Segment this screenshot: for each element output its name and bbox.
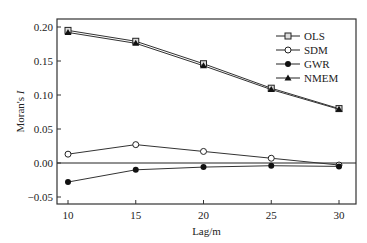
x-tick-label: 20 — [198, 209, 210, 221]
legend-label: SDM — [304, 44, 328, 56]
y-tick-label: 0.15 — [34, 55, 54, 67]
y-tick-label: 0.05 — [34, 123, 54, 135]
y-tick-label: 0.20 — [34, 21, 54, 33]
marker-gwr — [65, 179, 71, 185]
marker-gwr — [336, 163, 342, 169]
legend-marker — [285, 47, 291, 53]
y-tick-label: −0.05 — [28, 191, 54, 203]
marker-sdm — [268, 155, 274, 161]
marker-gwr — [201, 164, 207, 170]
legend-marker — [285, 33, 291, 39]
x-tick-label: 15 — [130, 209, 142, 221]
x-tick-label: 10 — [63, 209, 75, 221]
y-tick-label: 0.00 — [34, 157, 54, 169]
x-axis-label: Lag/m — [192, 225, 221, 237]
series-line-nmem — [68, 32, 339, 109]
marker-sdm — [65, 151, 71, 157]
x-tick-label: 30 — [334, 209, 346, 221]
series-line-ols — [68, 30, 339, 108]
y-tick-label: 0.10 — [34, 89, 54, 101]
legend-label: GWR — [304, 58, 330, 70]
y-axis-label: Moran's I — [14, 89, 26, 132]
marker-sdm — [201, 148, 207, 154]
legend-label: OLS — [304, 30, 325, 42]
marker-sdm — [133, 142, 139, 148]
legend-label: NMEM — [304, 72, 338, 84]
marker-gwr — [133, 167, 139, 173]
x-tick-label: 25 — [266, 209, 278, 221]
legend-marker — [285, 61, 291, 67]
line-chart: −0.050.000.050.100.150.201015202530Lag/m… — [0, 0, 367, 243]
marker-gwr — [268, 163, 274, 169]
